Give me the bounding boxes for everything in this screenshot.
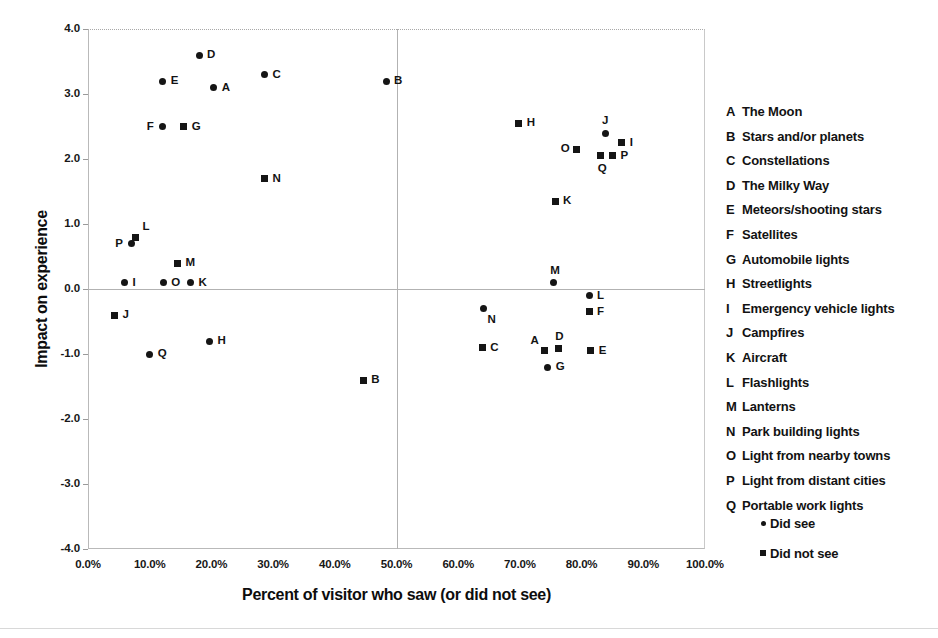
x-tick-label: 40.0%	[305, 558, 365, 570]
data-point-marker	[261, 175, 268, 182]
data-point-marker	[544, 364, 551, 371]
data-point-marker	[206, 338, 213, 345]
x-axis-title: Percent of visitor who saw (or did not s…	[88, 586, 705, 604]
legend-item-description: Lanterns	[742, 399, 796, 414]
data-point-label: E	[599, 345, 607, 357]
data-point-marker	[541, 347, 548, 354]
data-point-marker	[160, 279, 167, 286]
data-point-label: L	[143, 221, 150, 233]
data-point-label: C	[490, 342, 498, 354]
data-point-marker	[618, 139, 625, 146]
data-point-label: A	[531, 335, 539, 347]
legend-item-description: Constellations	[742, 153, 829, 168]
y-tick-mark	[83, 159, 88, 160]
legend-item-key: P	[726, 473, 742, 488]
series-legend-item: Did see	[756, 508, 838, 538]
legend-item-f: FSatellites	[726, 227, 934, 252]
legend-item-a: AThe Moon	[726, 104, 934, 129]
legend-item-description: Satellites	[742, 227, 798, 242]
data-point-label: B	[394, 75, 402, 87]
data-point-label: P	[115, 238, 123, 250]
data-point-label: B	[371, 374, 379, 386]
data-point-marker	[609, 152, 616, 159]
legend-item-description: Meteors/shooting stars	[742, 202, 882, 217]
data-point-marker	[383, 78, 390, 85]
legend-item-key: Q	[726, 498, 742, 513]
data-point-marker	[261, 71, 268, 78]
data-point-marker	[174, 260, 181, 267]
data-point-marker	[196, 52, 203, 59]
data-point-label: N	[272, 173, 280, 185]
x-tick-label: 80.0%	[552, 558, 612, 570]
legend-item-key: O	[726, 448, 742, 463]
legend-item-description: Streetlights	[742, 276, 812, 291]
legend-item-description: Campfires	[742, 325, 804, 340]
data-point-label: J	[602, 115, 608, 127]
x-tick-label: 60.0%	[428, 558, 488, 570]
legend-item-key: J	[726, 325, 742, 340]
legend-item-g: GAutomobile lights	[726, 252, 934, 277]
legend-item-key: I	[726, 301, 742, 316]
y-tick-label: -4.0	[36, 542, 80, 554]
data-point-marker	[360, 377, 367, 384]
circle-marker-icon	[756, 521, 770, 526]
legend-item-n: NPark building lights	[726, 424, 934, 449]
data-point-label: G	[192, 121, 201, 133]
data-point-marker	[552, 198, 559, 205]
data-point-label: E	[171, 75, 179, 87]
legend-item-description: Aircraft	[742, 350, 787, 365]
series-legend: Did seeDid not see	[756, 508, 838, 568]
data-point-marker	[586, 292, 593, 299]
data-point-label: P	[620, 150, 628, 162]
data-point-marker	[111, 312, 118, 319]
legend-item-key: L	[726, 375, 742, 390]
legend-item-description: The Moon	[742, 104, 802, 119]
data-point-label: J	[123, 309, 129, 321]
data-point-label: M	[185, 257, 195, 269]
x-tick-label: 0.0%	[58, 558, 118, 570]
y-tick-label: 4.0	[36, 22, 80, 34]
fifty-percent-reference-line	[397, 29, 398, 549]
data-point-marker	[187, 279, 194, 286]
x-tick-label: 100.0%	[675, 558, 735, 570]
legend-item-key: B	[726, 129, 742, 144]
legend-item-description: Stars and/or planets	[742, 129, 864, 144]
data-point-label: O	[561, 143, 570, 155]
data-point-marker	[180, 123, 187, 130]
legend-item-key: H	[726, 276, 742, 291]
y-axis-title: Impact on experience	[33, 79, 51, 499]
data-point-marker	[550, 279, 557, 286]
legend-item-key: E	[726, 202, 742, 217]
data-point-marker	[555, 345, 562, 352]
data-point-label: D	[555, 331, 563, 343]
square-marker-icon	[756, 550, 770, 556]
y-tick-mark	[83, 224, 88, 225]
data-point-label: O	[171, 277, 180, 289]
data-point-marker	[602, 130, 609, 137]
data-point-label: M	[550, 265, 560, 277]
series-legend-item: Did not see	[756, 538, 838, 568]
data-point-label: C	[272, 69, 280, 81]
data-point-label: I	[630, 137, 633, 149]
legend-item-l: LFlashlights	[726, 375, 934, 400]
data-point-marker	[132, 234, 139, 241]
data-point-marker	[128, 240, 135, 247]
legend-item-o: OLight from nearby towns	[726, 448, 934, 473]
data-point-label: G	[556, 361, 565, 373]
x-tick-label: 20.0%	[181, 558, 241, 570]
legend-item-description: Emergency vehicle lights	[742, 301, 894, 316]
legend-item-i: IEmergency vehicle lights	[726, 301, 934, 326]
y-tick-mark	[83, 94, 88, 95]
data-point-label: L	[597, 290, 604, 302]
legend-item-key: A	[726, 104, 742, 119]
data-point-marker	[597, 152, 604, 159]
legend-item-key: M	[726, 399, 742, 414]
legend-item-description: Flashlights	[742, 375, 809, 390]
legend-item-description: Automobile lights	[742, 252, 849, 267]
legend-item-description: Light from distant cities	[742, 473, 886, 488]
series-legend-label: Did see	[770, 516, 815, 531]
data-point-label: F	[597, 306, 604, 318]
legend-item-description: The Milky Way	[742, 178, 829, 193]
legend-item-b: BStars and/or planets	[726, 129, 934, 154]
data-point-marker	[587, 347, 594, 354]
